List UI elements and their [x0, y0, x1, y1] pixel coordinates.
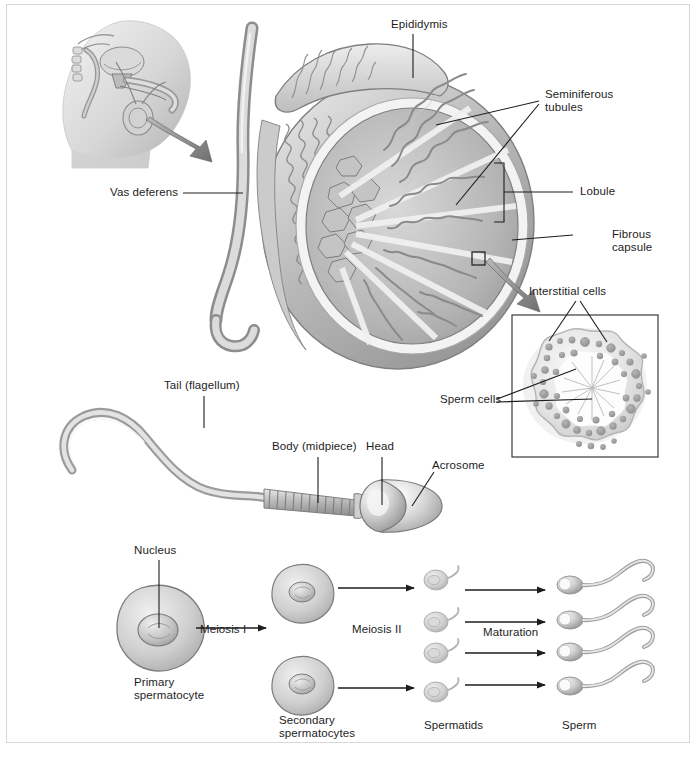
- mature-sperm-4: [557, 662, 653, 695]
- label-meiosis-2: Meiosis II: [352, 623, 402, 637]
- label-primary-spermatocyte-line2: spermatocyte: [134, 689, 204, 703]
- primary-spermatocyte-cell: [117, 585, 204, 671]
- label-body-midpiece: Body (midpiece): [272, 440, 357, 454]
- label-epididymis: Epididymis: [391, 18, 448, 32]
- label-head: Head: [366, 440, 394, 454]
- label-lobule: Lobule: [580, 185, 615, 199]
- secondary-spermatocyte-cell-bottom: [272, 656, 334, 715]
- label-tail-flagellum: Tail (flagellum): [164, 379, 240, 393]
- label-primary-spermatocyte-line1: Primary: [134, 676, 174, 690]
- figure-page: Epididymis Seminiferous tubules Lobule F…: [0, 0, 698, 762]
- label-secondary-spermatocytes-line1: Secondary: [279, 714, 335, 728]
- mature-sperm-3: [557, 628, 653, 661]
- label-sperm: Sperm: [562, 719, 596, 733]
- vas-deferens-duct: [216, 28, 254, 346]
- seminiferous-tubule-inset: [512, 315, 658, 457]
- label-seminiferous-tubules-line1: Seminiferous: [545, 88, 613, 102]
- spermatid-3: [424, 639, 459, 663]
- male-pelvis-sagittal-inset: [63, 21, 212, 168]
- mature-sperm-cell: [64, 412, 442, 532]
- label-nucleus: Nucleus: [134, 544, 176, 558]
- label-meiosis-1: Meiosis I: [200, 623, 246, 637]
- testis-cross-section: [257, 44, 540, 369]
- spermatid-2: [424, 608, 459, 632]
- label-fibrous-capsule-line2: capsule: [612, 241, 652, 255]
- mature-sperm-1: [557, 561, 653, 594]
- label-spermatids: Spermatids: [424, 719, 483, 733]
- secondary-spermatocyte-cell-top: [272, 564, 334, 623]
- label-fibrous-capsule-line1: Fibrous: [612, 228, 651, 242]
- spermatid-1: [424, 566, 459, 590]
- spermatid-4: [424, 678, 459, 702]
- label-vas-deferens: Vas deferens: [110, 186, 178, 200]
- label-maturation: Maturation: [483, 626, 538, 640]
- primary-spermatocyte-nucleus: [138, 614, 178, 646]
- diagram-artwork: [0, 0, 698, 762]
- label-sperm-cells: Sperm cells: [440, 393, 501, 407]
- label-seminiferous-tubules-line2: tubules: [545, 101, 583, 115]
- label-secondary-spermatocytes-line2: spermatocytes: [279, 727, 355, 741]
- label-acrosome: Acrosome: [432, 459, 485, 473]
- label-interstitial-cells: Interstitial cells: [529, 285, 606, 299]
- mature-sperm-2: [557, 596, 653, 629]
